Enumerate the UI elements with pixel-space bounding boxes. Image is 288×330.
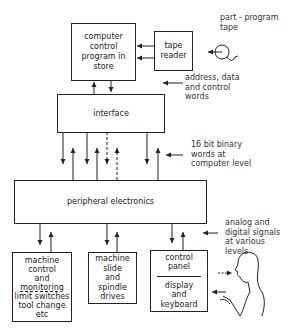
mc-line-1: machine [25,256,59,265]
binary-annotation: 16 bit binary words at computer level [191,140,251,169]
signals-annotation-line-2: digital signals [225,228,280,238]
computer-line-3: program in [82,52,126,62]
ms-line-2: slide [103,264,122,274]
address-annotation-line-1: address, data [185,73,240,83]
ms-line-5: drives [100,292,124,302]
tape-annotation-line-1: part - program [220,13,279,23]
ms-line-4: spindle [98,283,127,293]
mc-line-2: control [28,265,56,274]
mc-line-7: etc [36,310,48,319]
cp-line-3: display [165,281,193,291]
interface-label: interface [93,109,129,119]
mc-line-5: limit switches [15,292,70,301]
control-panel-divider [157,276,202,277]
address-annotation: address, data and control words [185,73,240,102]
ms-line-3: and [105,273,120,283]
computer-line-1: computer [84,32,123,42]
address-annotation-line-3: words [185,92,240,102]
cp-line-2: panel [168,262,190,272]
peripheral-electronics-box: peripheral electronics [14,180,207,224]
machine-slide-box: machine slide and spindle drives [88,252,137,304]
address-annotation-line-2: and control [185,83,240,93]
cp-line-5: keyboard [160,300,197,310]
tape-reel-icon [214,44,230,60]
machine-control-box: machine control and monitoring limit swi… [12,252,72,322]
mc-line-6: tool change [18,301,65,310]
tape-reader-line-1: tape [164,41,182,51]
tape-annotation-line-2: tape [220,23,279,33]
computer-line-2: control [90,42,118,52]
signals-annotation-line-3: at various [225,237,280,247]
tape-annotation: part - program tape [220,13,279,32]
peripheral-label: peripheral electronics [67,197,154,207]
cp-line-4: and [171,290,186,300]
tape-reader-box: tape reader [154,31,193,71]
mc-line-3: and [34,274,49,283]
computer-line-4: store [93,62,113,72]
binary-annotation-line-3: computer level [191,159,251,169]
tape-reader-line-2: reader [160,51,186,61]
interface-box: interface [57,94,165,133]
control-panel-box: control panel display and keyboard [150,250,208,312]
computer-control-box: computer control program in store [71,23,136,81]
binary-annotation-line-1: 16 bit binary [191,140,251,150]
cp-line-1: control [165,253,193,263]
operator-figure-icon [218,250,266,318]
ms-line-1: machine [95,254,129,264]
signals-annotation-line-1: analog and [225,218,280,228]
mc-line-4: monitoring [20,283,64,292]
binary-annotation-line-2: words at [191,150,251,160]
